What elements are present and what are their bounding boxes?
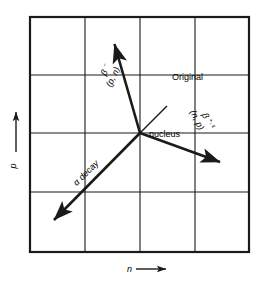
original-label: Original — [172, 72, 203, 82]
beta-minus-label-sub: (p, n) — [104, 65, 122, 88]
x-axis-group: n — [127, 264, 166, 274]
beta-plus-epsilon-label-sub: (n, p) — [188, 108, 206, 131]
beta-minus-label-superscript: − — [101, 62, 108, 68]
alpha-decay-label: α decay — [71, 158, 101, 188]
nucleus-label: nucleus — [149, 129, 181, 139]
n-axis-label: n — [127, 264, 132, 274]
p-axis-label: p — [8, 163, 18, 169]
nuclide-chart-figure: β − (p, n) β +, ε (n, p) α decay Origina… — [0, 0, 264, 285]
y-axis-group: p — [8, 112, 18, 170]
alpha-decay-label-group: α decay — [71, 158, 101, 188]
beta-minus-arrow — [115, 44, 141, 133]
beta-plus-epsilon-label-superscript: +, ε — [208, 118, 218, 129]
beta-plus-epsilon-label-group: β +, ε (n, p) — [188, 104, 217, 136]
alpha-decay-arrow — [54, 133, 140, 220]
